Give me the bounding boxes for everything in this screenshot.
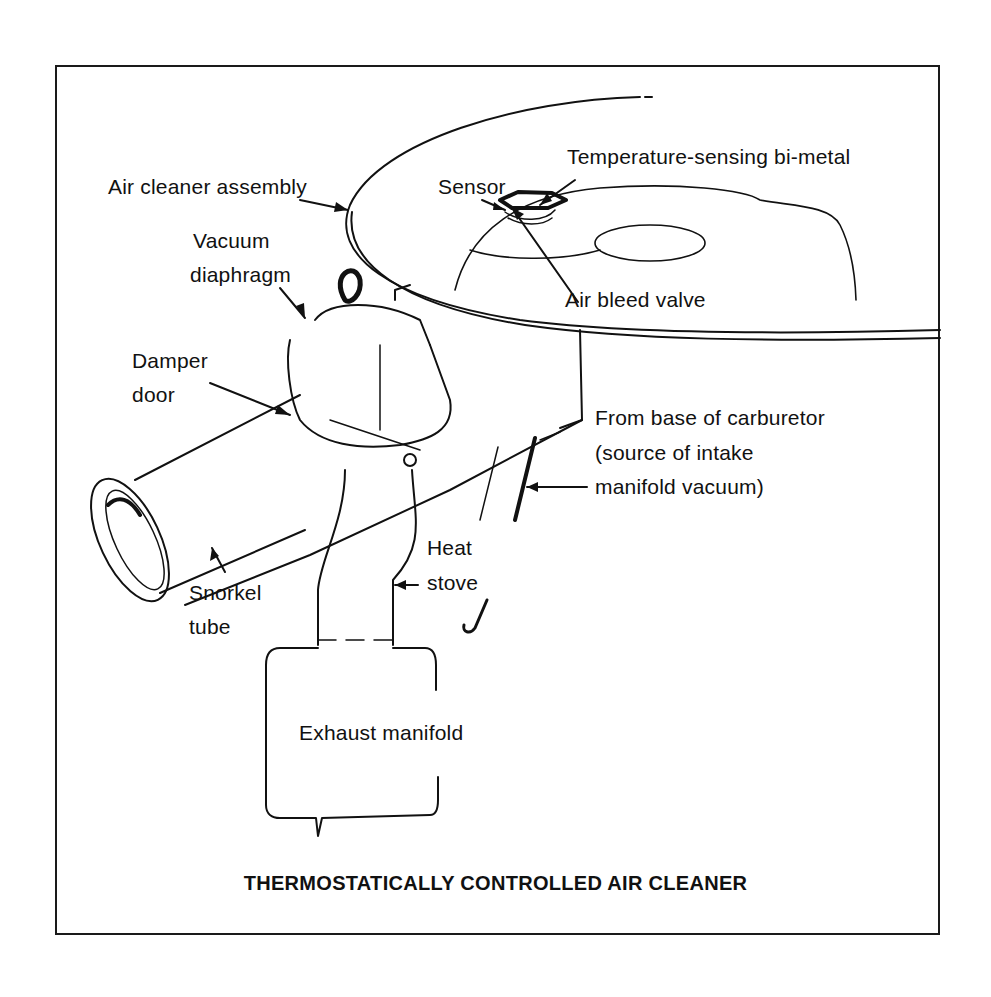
label-vacuum-diaphragm-1: Vacuum	[193, 226, 270, 255]
label-damper-door-1: Damper	[132, 346, 208, 375]
label-carburetor-3: manifold vacuum)	[595, 472, 764, 501]
label-carburetor-1: From base of carburetor	[595, 403, 825, 432]
label-exhaust-manifold: Exhaust manifold	[299, 718, 463, 747]
label-heat-stove-1: Heat	[427, 533, 472, 562]
label-heat-stove-2: stove	[427, 568, 478, 597]
label-vacuum-diaphragm-2: diaphragm	[190, 260, 291, 289]
heat-stove-pipe	[318, 470, 416, 645]
label-snorkel-1: Snorkel	[189, 578, 262, 607]
label-snorkel-2: tube	[189, 612, 231, 641]
snorkel-tube	[75, 395, 582, 612]
label-air-cleaner-assembly: Air cleaner assembly	[108, 172, 307, 201]
label-sensor: Sensor	[438, 172, 506, 201]
figure-title: THERMOSTATICALLY CONTROLLED AIR CLEANER	[0, 872, 991, 895]
label-carburetor-2: (source of intake	[595, 438, 754, 467]
housing-base	[395, 285, 582, 440]
label-damper-door-2: door	[132, 380, 175, 409]
label-temperature-bimetal: Temperature-sensing bi-metal	[567, 142, 850, 171]
vacuum-hose	[464, 438, 535, 632]
filter-element	[455, 186, 856, 300]
sensor	[500, 192, 566, 224]
label-air-bleed-valve: Air bleed valve	[565, 285, 706, 314]
